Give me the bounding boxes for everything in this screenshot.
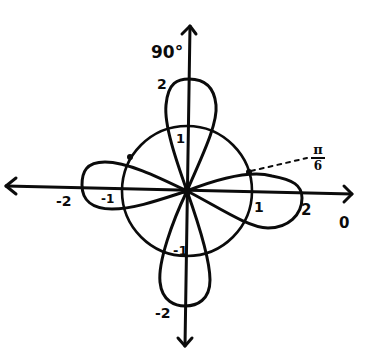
tick-label-left-minus-2: -2 — [56, 194, 72, 208]
petal-top — [166, 79, 216, 191]
angle-denominator: 6 — [314, 160, 322, 172]
tick-label-bottom-minus-1: -1 — [173, 244, 187, 257]
axis-label-90-degrees: 90° — [151, 44, 183, 61]
tick-label-right-2: 2 — [301, 203, 311, 218]
angle-label-pi-over-6: π 6 — [311, 143, 325, 172]
angle-numerator: π — [313, 143, 323, 156]
intersection-point — [246, 169, 252, 175]
polar-graph: 90° 0 2 1 -2 -1 1 2 -1 -2 π 6 — [0, 0, 366, 350]
angle-ray-dashed — [251, 158, 307, 171]
axis-label-0: 0 — [339, 216, 349, 231]
petal-left — [82, 162, 187, 209]
center-point — [183, 187, 192, 196]
tick-label-top-1: 1 — [176, 132, 185, 145]
tick-label-bottom-minus-2: -2 — [155, 306, 171, 320]
intersection-point — [127, 154, 133, 160]
tick-label-right-1: 1 — [254, 200, 264, 214]
tick-label-top-2: 2 — [157, 77, 167, 91]
tick-label-left-minus-1: -1 — [101, 193, 114, 205]
